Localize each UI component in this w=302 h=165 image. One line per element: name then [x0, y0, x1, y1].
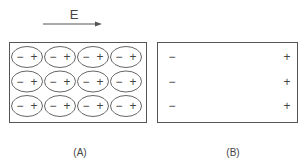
negative-charge: −	[82, 99, 89, 113]
panel-b-caption: (B)	[226, 147, 239, 158]
panel-a-caption: (A)	[73, 147, 86, 158]
negative-charge: −	[49, 50, 56, 64]
positive-charge: +	[30, 50, 37, 64]
negative-charge: −	[115, 99, 122, 113]
positive-charge: +	[96, 50, 103, 64]
positive-surface-charge: +	[283, 50, 290, 64]
negative-charge: −	[16, 99, 23, 113]
negative-charge: −	[115, 75, 122, 89]
positive-surface-charge: +	[283, 99, 290, 113]
negative-charge: −	[49, 75, 56, 89]
positive-charge: +	[129, 75, 136, 89]
negative-charge: −	[49, 99, 56, 113]
negative-surface-charge: −	[168, 99, 175, 113]
positive-charge: +	[96, 75, 103, 89]
diagram-canvas: E −+−+−+−+−+−+−+−+−+−+−+−+ −−−+++	[0, 0, 302, 165]
positive-charge: +	[63, 99, 70, 113]
negative-charge: −	[82, 50, 89, 64]
field-label: E	[70, 7, 79, 22]
dipole: −+	[78, 71, 109, 92]
positive-charge: +	[63, 75, 70, 89]
positive-charge: +	[96, 99, 103, 113]
dipole: −+	[78, 96, 109, 117]
panel-b-box	[158, 43, 298, 123]
dipole: −+	[111, 71, 142, 92]
positive-charge: +	[129, 99, 136, 113]
dipole: −+	[78, 47, 109, 68]
positive-charge: +	[129, 50, 136, 64]
field-arrow	[43, 22, 102, 27]
positive-surface-charge: +	[283, 75, 290, 89]
negative-surface-charge: −	[168, 50, 175, 64]
negative-surface-charge: −	[168, 75, 175, 89]
dipole: −+	[111, 96, 142, 117]
positive-charge: +	[63, 50, 70, 64]
dipole: −+	[45, 47, 76, 68]
dipole: −+	[12, 96, 43, 117]
negative-charge: −	[82, 75, 89, 89]
dipole-grid: −+−+−+−+−+−+−+−+−+−+−+−+	[12, 47, 142, 117]
positive-charge: +	[30, 99, 37, 113]
dipole: −+	[45, 71, 76, 92]
dipole: −+	[111, 47, 142, 68]
positive-charge: +	[30, 75, 37, 89]
dipole: −+	[12, 71, 43, 92]
dipole: −+	[12, 47, 43, 68]
surface-charges: −−−+++	[168, 50, 290, 113]
negative-charge: −	[115, 50, 122, 64]
negative-charge: −	[16, 50, 23, 64]
dipole: −+	[45, 96, 76, 117]
negative-charge: −	[16, 75, 23, 89]
